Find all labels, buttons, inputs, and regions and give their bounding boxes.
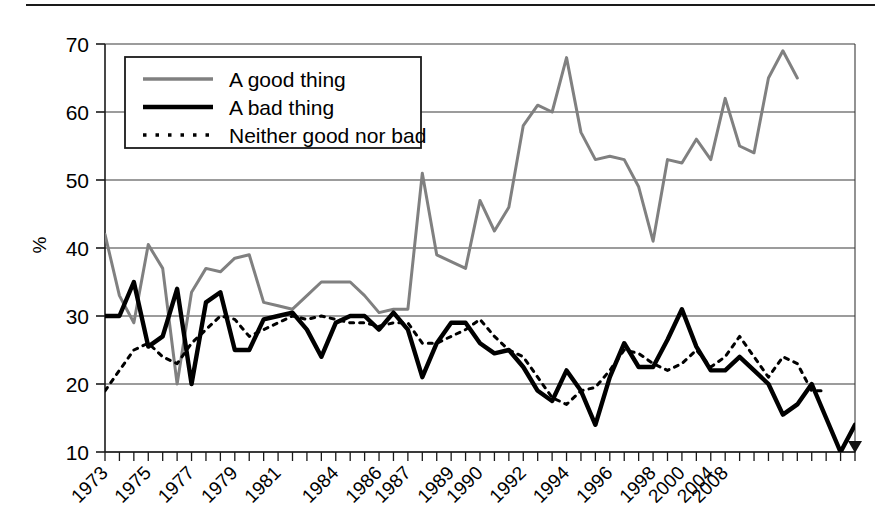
x-axis-ticks bbox=[105, 452, 855, 461]
legend-label-2: A bad thing bbox=[229, 96, 334, 119]
chart-legend: A good thingA bad thingNeither good nor … bbox=[125, 57, 426, 148]
x-tick-label: 1979 bbox=[197, 462, 242, 507]
x-tick-labels: 1973197519771979198119841986198719891990… bbox=[67, 462, 732, 507]
chart-canvas: 10203040506070%1973197519771979198119841… bbox=[0, 0, 889, 532]
x-tick-label: 1996 bbox=[572, 462, 617, 507]
y-tick-label: 50 bbox=[66, 169, 89, 192]
chart-figure: 10203040506070%1973197519771979198119841… bbox=[0, 0, 889, 532]
x-tick-label: 1984 bbox=[298, 462, 343, 507]
legend-label-1: A good thing bbox=[229, 68, 346, 91]
y-tick-label: 20 bbox=[66, 373, 89, 396]
series-line-2 bbox=[105, 282, 855, 452]
y-tick-label: 60 bbox=[66, 101, 89, 124]
y-tick-label: 40 bbox=[66, 237, 89, 260]
legend-label-3: Neither good nor bad bbox=[229, 124, 426, 147]
series-line-3 bbox=[105, 316, 826, 404]
x-tick-label: 1992 bbox=[485, 462, 530, 507]
x-tick-label: 1981 bbox=[240, 462, 285, 507]
y-axis-title: % bbox=[29, 236, 50, 253]
y-tick-label: 30 bbox=[66, 305, 89, 328]
x-tick-label: 1973 bbox=[67, 462, 112, 507]
x-tick-label: 1975 bbox=[110, 462, 155, 507]
y-tick-label: 70 bbox=[66, 33, 89, 56]
y-tick-label: 10 bbox=[66, 441, 89, 464]
x-tick-label: 1994 bbox=[529, 462, 574, 507]
x-tick-label: 1977 bbox=[154, 462, 199, 507]
